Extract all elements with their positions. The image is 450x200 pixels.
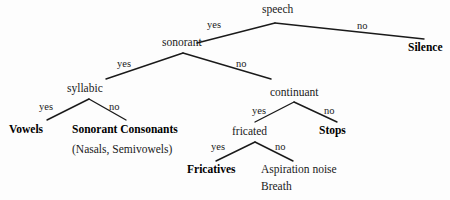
tree-node-soncons: Sonorant Consonants [72, 124, 178, 136]
tree-node-speech: speech [262, 4, 293, 16]
decision-tree-diagram: speechsonorantSilencesyllabiccontinuantV… [0, 0, 450, 200]
tree-edge-syllabic-yes [47, 99, 89, 120]
tree-node-silence: Silence [408, 42, 443, 54]
edge-label-fricated-no: no [275, 142, 286, 153]
edge-label-fricated-yes: yes [211, 142, 225, 153]
tree-edge-sonorant-no [183, 53, 271, 79]
tree-node-sonorant: sonorant [162, 37, 202, 49]
tree-edge-speech-no [275, 23, 424, 39]
edge-label-sonorant-no: no [236, 59, 247, 70]
edge-label-syllabic-no: no [109, 102, 120, 113]
edge-label-continuant-yes: yes [252, 106, 266, 117]
edge-label-sonorant-yes: yes [117, 59, 131, 70]
tree-node-syllabic: syllabic [67, 83, 103, 95]
tree-node-aspiration: Aspiration noise [261, 164, 337, 176]
tree-node-continuant: continuant [270, 87, 319, 99]
tree-edge-fricated-no [255, 142, 293, 161]
tree-node-breath: Breath [261, 181, 292, 193]
tree-node-fricatives: Fricatives [187, 164, 236, 176]
tree-node-vowels: Vowels [9, 124, 43, 136]
tree-node-fricated: fricated [232, 126, 267, 138]
tree-edge-syllabic-no [89, 99, 126, 120]
tree-node-sonconssub: (Nasals, Semivowels) [72, 144, 172, 156]
edge-label-continuant-no: no [324, 106, 335, 117]
tree-node-stops: Stops [319, 125, 346, 137]
edge-label-speech-no: no [357, 21, 368, 32]
edge-label-speech-yes: yes [207, 20, 221, 31]
edge-label-syllabic-yes: yes [39, 102, 53, 113]
